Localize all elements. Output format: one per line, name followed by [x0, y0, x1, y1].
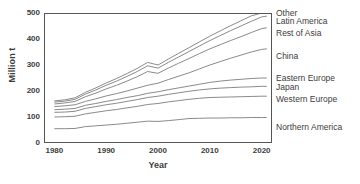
series-line-western-europe — [54, 96, 266, 117]
y-tick-400: 400 — [14, 35, 40, 43]
series-label-china: China — [276, 52, 298, 61]
series-label-japan: Japan — [276, 83, 299, 92]
lines-svg — [44, 13, 272, 143]
x-tick-1990: 1990 — [97, 146, 115, 155]
x-axis-title: Year — [44, 160, 272, 170]
x-tick-1980: 1980 — [45, 146, 63, 155]
plot-area — [44, 13, 272, 143]
series-line-china — [54, 49, 266, 107]
y-tick-500: 500 — [14, 9, 40, 17]
x-tick-2020: 2020 — [253, 146, 271, 155]
y-tick-100: 100 — [14, 113, 40, 121]
x-tick-2000: 2000 — [149, 146, 167, 155]
series-label-rest-of-asia: Rest of Asia — [276, 29, 321, 38]
series-label-latin-america: Latin America — [276, 17, 328, 26]
series-paths — [54, 13, 266, 129]
axes-frame — [45, 14, 272, 143]
series-labels: OtherLatin AmericaRest of AsiaChinaEaste… — [276, 0, 360, 184]
series-line-latin-america — [54, 16, 266, 102]
chart-figure: Million t 0100200300400500 1980199020002… — [0, 0, 360, 184]
y-tick-200: 200 — [14, 87, 40, 95]
series-line-rest-of-asia — [54, 28, 266, 104]
series-line-northern-america — [54, 118, 266, 129]
series-label-northern-america: Northern America — [276, 123, 342, 132]
x-tick-2010: 2010 — [201, 146, 219, 155]
y-tick-300: 300 — [14, 61, 40, 69]
series-label-western-europe: Western Europe — [276, 95, 337, 104]
series-line-japan — [54, 86, 266, 112]
